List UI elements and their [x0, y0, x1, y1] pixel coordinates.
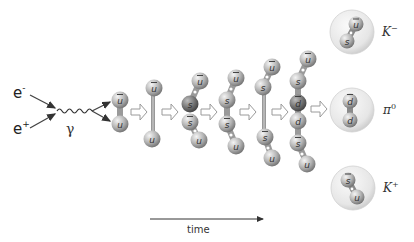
quark-up: u — [228, 138, 245, 155]
svg-text:d: d — [347, 116, 353, 126]
stage-arrow-6 — [311, 101, 327, 117]
svg-text:u: u — [233, 142, 239, 152]
photon-wave — [57, 109, 92, 113]
quark-antiup: u — [192, 73, 209, 90]
positron-line — [30, 114, 55, 128]
svg-text:u: u — [269, 63, 275, 73]
quark-down: d — [290, 95, 307, 112]
svg-text:u: u — [353, 20, 359, 30]
stage-1: u u — [112, 92, 129, 133]
svg-text:s: s — [188, 118, 193, 128]
quark-up: u — [299, 156, 316, 173]
quark-strange: s — [290, 73, 307, 90]
quark-antiup: u — [146, 80, 163, 97]
hadron-k-plus: s u K+ — [331, 166, 399, 210]
quark-antistrange: s — [219, 116, 236, 133]
svg-text:d: d — [295, 99, 301, 109]
svg-text:s: s — [296, 139, 301, 149]
svg-text:s: s — [346, 176, 351, 186]
svg-text:u: u — [269, 154, 275, 164]
quark-up: u — [264, 150, 281, 167]
stage-arrow-5 — [272, 104, 288, 120]
svg-text:u: u — [196, 136, 202, 146]
k-plus-label: K+ — [382, 180, 399, 195]
quark-antiup: u — [264, 59, 281, 76]
stage-arrow-2 — [162, 104, 178, 120]
k-minus-label: K− — [381, 24, 398, 39]
quark-antiup: u — [228, 70, 245, 87]
svg-text:s: s — [296, 77, 301, 87]
svg-text:u: u — [197, 77, 203, 87]
svg-text:s: s — [345, 37, 350, 47]
svg-text:u: u — [117, 96, 123, 106]
svg-text:u: u — [354, 193, 360, 203]
svg-text:u: u — [151, 84, 157, 94]
svg-text:s: s — [263, 133, 268, 143]
svg-text:e-: e- — [13, 83, 25, 102]
quark-antistrange: s — [257, 129, 274, 146]
hadron-k-minus: u s K− — [330, 10, 398, 54]
electron-label: e- — [13, 83, 25, 102]
svg-text:u: u — [149, 135, 155, 145]
svg-text:u: u — [233, 74, 239, 84]
svg-text:u: u — [117, 120, 123, 130]
positron-label: e+ — [13, 119, 30, 138]
quark-out-line-top — [92, 102, 110, 111]
hadron-pi-zero: d d π0 — [330, 88, 396, 132]
stage-arrow-1 — [131, 104, 147, 120]
gamma-label: γ — [66, 121, 74, 137]
stage-arrow-4 — [240, 104, 256, 120]
quark-strange: s — [182, 96, 199, 113]
quark-antiup: u — [300, 51, 317, 68]
svg-text:u: u — [305, 55, 311, 65]
quark-antiup: u — [112, 92, 129, 109]
quark-up: u — [191, 132, 208, 149]
electron-line — [30, 95, 55, 108]
svg-text:e+: e+ — [13, 119, 30, 138]
quark-antidown: d — [290, 113, 307, 130]
svg-text:d: d — [295, 117, 301, 127]
stage-arrow-3 — [201, 104, 217, 120]
quark-antistrange: s — [182, 114, 199, 131]
quark-up: u — [144, 131, 161, 148]
quark-out-line-bottom — [92, 111, 110, 121]
svg-text:s: s — [225, 120, 230, 130]
time-label: time — [187, 224, 210, 235]
svg-text:u: u — [304, 160, 310, 170]
quark-antistrange: s — [290, 135, 307, 152]
pi-zero-label: π0 — [382, 102, 396, 117]
svg-text:s: s — [261, 83, 266, 93]
hadronization-diagram: e- e+ γ u u u u — [0, 0, 414, 242]
quark-up: u — [112, 116, 129, 133]
quark-strange: s — [219, 92, 236, 109]
svg-text:s: s — [188, 100, 193, 110]
svg-text:d: d — [347, 97, 353, 107]
quark-strange: s — [255, 79, 272, 96]
svg-text:s: s — [225, 96, 230, 106]
